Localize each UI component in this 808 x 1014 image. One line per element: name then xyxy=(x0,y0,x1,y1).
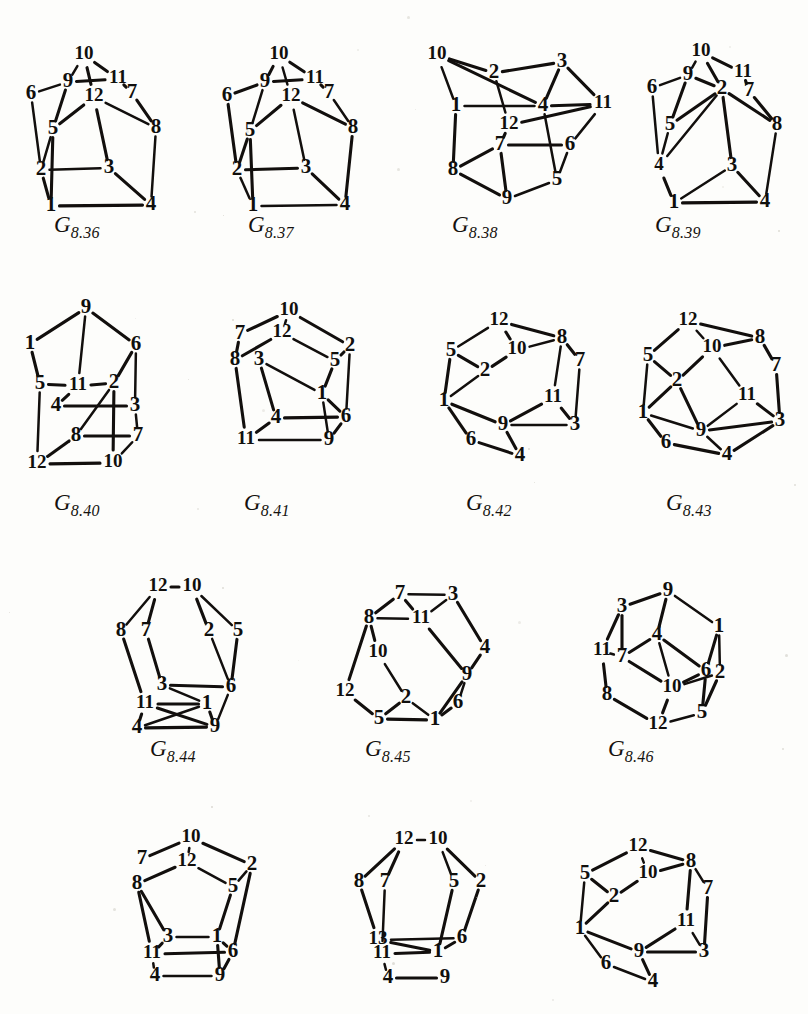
vertex-label-2: 2 xyxy=(489,59,500,83)
vertex-label-10: 10 xyxy=(280,298,299,319)
vertex-label-2: 2 xyxy=(345,332,356,356)
graph-edge-5-2 xyxy=(592,879,608,891)
vertex-label-1: 1 xyxy=(714,613,725,637)
vertex-label-2: 2 xyxy=(109,369,120,393)
figure-caption-g844: G8.44 xyxy=(150,736,196,762)
scan-speck xyxy=(528,448,530,450)
caption-symbol: G xyxy=(666,490,683,515)
graph-edge-12-5 xyxy=(198,868,225,883)
caption-symbol: G xyxy=(452,212,469,237)
caption-subscript: 8.37 xyxy=(265,224,294,241)
vertex-label-10: 10 xyxy=(692,39,711,60)
vertex-label-6: 6 xyxy=(228,938,239,962)
graph-edge-9-6 xyxy=(235,85,257,93)
caption-subscript: 8.40 xyxy=(71,502,100,519)
graph-edge-1-4 xyxy=(60,205,143,206)
vertex-label-12: 12 xyxy=(178,849,197,870)
graph-diagram-g849: 128510721119364 xyxy=(560,812,735,997)
vertex-label-9: 9 xyxy=(440,964,451,988)
figure-caption-g845: G8.45 xyxy=(365,736,411,762)
vertex-label-8: 8 xyxy=(116,617,127,641)
vertex-label-5: 5 xyxy=(245,117,256,141)
scan-speck xyxy=(246,130,249,133)
vertex-label-3: 3 xyxy=(254,346,265,370)
scan-speck xyxy=(729,46,731,48)
scan-speck xyxy=(485,865,486,866)
graph-edge-3-1 xyxy=(266,364,314,390)
graph-diagram-g847: 107122853161149 xyxy=(110,812,280,992)
scan-speck xyxy=(211,806,213,808)
graph-canvas: 128510721119364 xyxy=(432,288,607,478)
graph-edge-2-5 xyxy=(386,703,400,714)
vertex-label-12: 12 xyxy=(629,834,648,855)
vertex-label-9: 9 xyxy=(502,185,513,209)
graph-edge-12-3 xyxy=(294,110,305,160)
vertex-label-6: 6 xyxy=(26,80,37,104)
graph-edge-2-3 xyxy=(246,168,298,170)
graph-edge-10-12 xyxy=(663,700,668,713)
vertex-label-10: 10 xyxy=(508,337,527,358)
vertex-label-6: 6 xyxy=(701,657,712,681)
graph-edge-9-1 xyxy=(37,313,79,340)
vertex-label-3: 3 xyxy=(301,154,312,178)
graph-canvas: 128510721119364 xyxy=(628,288,803,478)
vertex-label-6: 6 xyxy=(565,131,576,155)
vertex-label-1: 1 xyxy=(317,380,328,404)
graph-edge-8-10 xyxy=(371,626,375,640)
vertex-label-3: 3 xyxy=(557,48,568,72)
vertex-label-7: 7 xyxy=(703,875,714,899)
vertex-label-8: 8 xyxy=(230,346,241,370)
vertex-label-7: 7 xyxy=(133,422,144,446)
vertex-label-8: 8 xyxy=(348,114,359,138)
scan-speck xyxy=(392,962,395,965)
graph-edge-6-2 xyxy=(228,104,236,161)
graph-edge-12-10 xyxy=(50,463,100,464)
vertex-label-6: 6 xyxy=(466,426,477,450)
scan-speck xyxy=(778,230,780,232)
scan-speck xyxy=(262,409,265,412)
vertex-label-9: 9 xyxy=(663,577,674,601)
scan-speck xyxy=(407,16,410,19)
graph-edge-3-6 xyxy=(171,685,223,687)
graph-edge-11-9 xyxy=(429,629,461,668)
graph-canvas: 109117126582314 xyxy=(10,18,200,203)
vertex-label-11: 11 xyxy=(143,941,161,962)
graph-edge-10-2 xyxy=(621,881,637,892)
vertex-label-3: 3 xyxy=(699,938,710,962)
graph-edge-1-6 xyxy=(445,942,454,947)
graph-canvas: 107122853161149 xyxy=(110,812,280,992)
graph-edge-8-4 xyxy=(766,133,775,193)
graph-edge-10-2 xyxy=(385,664,402,691)
graph-canvas: 128510721119364 xyxy=(560,812,735,997)
vertex-label-12: 12 xyxy=(28,451,47,472)
graph-edge-7-10 xyxy=(629,661,661,681)
graph-edge-8-13 xyxy=(362,890,374,928)
vertex-label-10: 10 xyxy=(639,861,658,882)
graph-canvas: 107122835146119 xyxy=(208,288,383,478)
graph-edge-7-3 xyxy=(576,369,580,416)
graph-edge-2-3 xyxy=(502,63,553,71)
vertex-label-6: 6 xyxy=(647,74,658,98)
vertex-label-2: 2 xyxy=(672,367,683,391)
graph-edge-2-1 xyxy=(586,903,608,923)
graph-edge-11-9 xyxy=(646,929,675,947)
graph-edge-3-11 xyxy=(607,615,618,639)
vertex-label-5: 5 xyxy=(228,873,239,897)
vertex-label-group: 109117126582314 xyxy=(222,42,359,215)
graph-edge-9-5 xyxy=(515,183,549,196)
edge-group xyxy=(236,317,349,440)
graph-edge-4-9 xyxy=(146,727,207,728)
caption-subscript: 8.45 xyxy=(382,748,411,765)
vertex-label-4l: 4 xyxy=(654,153,664,174)
vertex-label-5: 5 xyxy=(449,868,460,892)
graph-edge-4-11 xyxy=(552,104,591,105)
vertex-label-7: 7 xyxy=(617,643,628,667)
vertex-label-8: 8 xyxy=(132,870,143,894)
vertex-label-1: 1 xyxy=(433,938,444,962)
vertex-label-8: 8 xyxy=(71,422,82,446)
graph-edge-5-2 xyxy=(677,94,715,120)
vertex-label-8: 8 xyxy=(364,604,375,628)
vertex-label-11: 11 xyxy=(109,66,127,87)
graph-edge-5-2 xyxy=(654,362,670,376)
graph-edge-9-11 xyxy=(76,80,105,82)
